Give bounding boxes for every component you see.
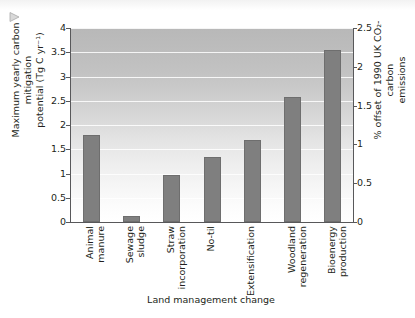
y-axis-left-tick-mark [66, 222, 70, 223]
y-axis-left-tick-mark [66, 28, 70, 29]
bar [244, 140, 261, 222]
y-axis-left-tick-mark [66, 174, 70, 175]
bar [284, 97, 301, 222]
y-axis-right-title-line2: emissions [396, 56, 407, 103]
x-axis-title: Land management change [70, 294, 352, 305]
y-axis-right-tick-label: 1.5 [357, 101, 383, 111]
bar [123, 216, 140, 222]
y-axis-left-tick-label: 4 [40, 23, 66, 33]
y-axis-right-tick-mark [353, 28, 357, 29]
y-axis-left-tick-mark [66, 198, 70, 199]
y-axis-left-tick-label: 2.5 [40, 96, 66, 106]
bar-series [71, 28, 353, 222]
bar-chart-figure: Maximum yearly carbon mitigation potenti… [0, 0, 415, 318]
bar [163, 175, 180, 222]
y-axis-left-tick-label: 1.5 [40, 144, 66, 154]
y-axis-right-tick-mark [353, 144, 357, 145]
y-axis-right-tick-mark [353, 183, 357, 184]
y-axis-right-tick-label: 1 [357, 139, 383, 149]
y-axis-left-tick-label: 1 [40, 169, 66, 179]
plot-area [70, 28, 354, 223]
bar [83, 135, 100, 222]
bar [204, 157, 221, 222]
y-axis-left-tick-mark [66, 77, 70, 78]
y-axis-left-tick-label: 2 [40, 120, 66, 130]
y-axis-left-tick-label: 3 [40, 72, 66, 82]
y-axis-left-tick-mark [66, 101, 70, 102]
y-axis-left-ticks: 00.511.522.533.54 [38, 28, 66, 222]
y-axis-left-tick-label: 0 [40, 217, 66, 227]
y-axis-left-tick-label: 0.5 [40, 193, 66, 203]
y-axis-right-tick-label: 0.5 [357, 178, 383, 188]
y-axis-right-tick-label: 2.5 [357, 23, 383, 33]
y-axis-right-tick-label: 2 [357, 62, 383, 72]
y-axis-right-ticks: 00.511.522.5 [357, 28, 385, 222]
y-axis-left-title-line1: Maximum yearly carbon mitigation [10, 22, 33, 137]
bar [324, 50, 341, 222]
y-axis-right-tick-label: 0 [357, 217, 383, 227]
y-axis-right-tick-mark [353, 222, 357, 223]
y-axis-right-tick-mark [353, 106, 357, 107]
y-axis-right-tick-mark [353, 67, 357, 68]
y-axis-left-tick-mark [66, 52, 70, 53]
y-axis-left-tick-label: 3.5 [40, 47, 66, 57]
y-axis-left-tick-mark [66, 149, 70, 150]
y-axis-left-tick-mark [66, 125, 70, 126]
